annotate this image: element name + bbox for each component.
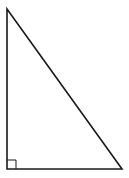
triangle-shape: [7, 9, 122, 169]
right-angle-marker: [7, 160, 16, 169]
right-triangle-diagram: [0, 0, 129, 178]
